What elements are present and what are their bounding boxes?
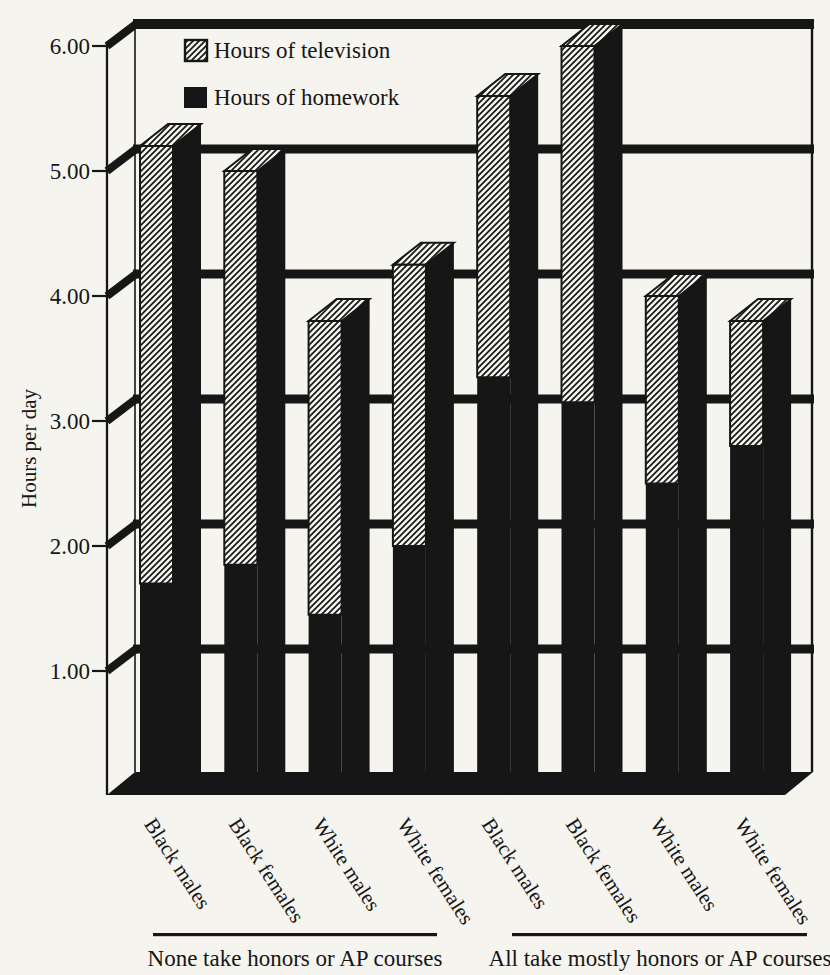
bar [646,274,707,795]
y-tick-label: 3.00 [50,409,90,434]
bar-front-homework [140,584,173,796]
y-tick-label: 4.00 [50,284,90,309]
category-label: White females [392,814,478,929]
bar-front-homework [562,402,595,795]
bar [562,24,623,795]
bar-front-homework [730,446,763,795]
bar-front-television [309,321,342,615]
group-label-all: All take mostly honors or AP courses [489,946,830,971]
bar [140,124,201,795]
gridline [133,19,814,29]
bar-front-television [562,46,595,402]
bar-side-face [763,299,791,795]
bar-side-face [257,149,285,795]
bar-side-face [595,24,623,795]
group-underline [153,933,437,936]
category-label: White females [730,814,816,929]
bar [309,299,370,795]
bar-side-face [173,124,201,795]
category-labels: Black males Black females White males Wh… [139,814,816,929]
bar-front-homework [224,565,257,795]
bars-layer [140,24,791,795]
bar-front-homework [477,377,510,795]
bar-front-homework [393,546,426,795]
bar-side-face [510,74,538,795]
bar-front-television [140,146,173,584]
tick-depth-connector [107,399,136,421]
bar-front-homework [309,615,342,795]
bar-front-television [393,265,426,546]
bar-side-face [342,299,370,795]
category-label: Black females [224,814,309,927]
group-underline [512,933,807,936]
gridline [133,145,814,154]
y-tick-label: 2.00 [50,534,90,559]
chart: 6.00 5.00 4.00 3.00 2.00 1.00 Hours per … [0,0,830,975]
bar-front-television [224,171,257,565]
legend-label-homework: Hours of homework [214,85,400,110]
bar-front-television [646,296,679,484]
bar [393,243,454,795]
y-axis-tick-labels: 6.00 5.00 4.00 3.00 2.00 1.00 [50,34,90,684]
bar-side-face [679,274,707,795]
legend-swatch-television-icon [185,40,207,61]
legend: Hours of television Hours of homework [184,38,400,110]
tick-depth-connector [107,649,136,671]
bar-front-television [730,321,763,446]
floor-slab [107,772,813,795]
group-labels: None take honors or AP courses All take … [148,933,830,971]
legend-swatch-homework-icon [184,87,207,108]
category-label: Black males [477,814,553,914]
category-label: Black males [139,814,215,914]
bar [730,299,791,795]
y-tick-label: 1.00 [50,659,90,684]
legend-label-television: Hours of television [214,38,391,63]
category-label: Black females [561,814,646,927]
bar [224,149,285,795]
tick-depth-connector [107,24,136,46]
y-tick-label: 6.00 [50,34,90,59]
tick-depth-connector [107,524,136,546]
tick-depth-connector [107,274,136,296]
category-label: White males [308,814,386,916]
bar-front-television [477,96,510,377]
bar-side-face [426,243,454,795]
y-tick-label: 5.00 [50,159,90,184]
group-label-none: None take honors or AP courses [148,946,443,971]
y-axis-title: Hours per day [17,389,41,508]
category-label: White males [645,814,723,916]
tick-depth-connector [107,149,136,171]
bar-front-homework [646,484,679,796]
bar [477,74,538,795]
